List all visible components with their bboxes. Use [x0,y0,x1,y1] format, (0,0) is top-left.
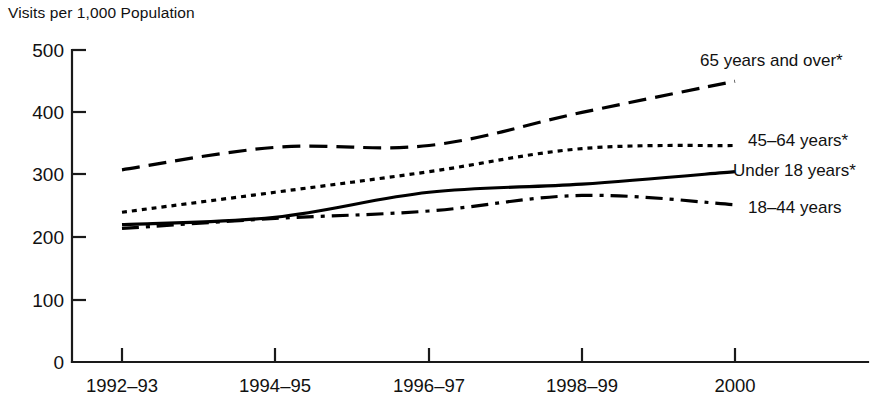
legend-label-45-64: 45–64 years* [748,131,849,150]
y-tick-label: 500 [32,40,64,61]
y-tick-label: 400 [32,102,64,123]
x-tick-label: 1998–99 [546,375,618,396]
series-group [122,81,735,228]
x-axis-labels: 1992–93 1994–95 1996–97 1998–99 2000 [86,375,756,396]
legend-label-65-and-over: 65 years and over* [700,51,843,70]
y-axis-labels: 500 400 300 200 100 0 [32,40,64,373]
y-tick-label: 200 [32,227,64,248]
y-axis-ticks [72,50,86,300]
x-tick-label: 1992–93 [86,375,158,396]
legend-label-18-44: 18–44 years [748,198,842,217]
y-tick-label: 0 [53,352,64,373]
chart-canvas: 500 400 300 200 100 0 1992–93 1994–95 19… [0,0,875,413]
x-tick-label: 1996–97 [393,375,465,396]
x-tick-label: 1994–95 [239,375,311,396]
line-chart: Visits per 1,000 Population 500 400 300 … [0,0,875,413]
x-tick-label: 2000 [714,375,755,396]
x-axis-ticks [122,348,735,362]
legend-label-under-18: Under 18 years* [733,161,856,180]
y-tick-label: 300 [32,164,64,185]
series-line-65-and-over [122,81,735,170]
y-tick-label: 100 [32,290,64,311]
legend: 65 years and over* 45–64 years* Under 18… [700,51,856,217]
series-line-under-18 [122,172,735,225]
